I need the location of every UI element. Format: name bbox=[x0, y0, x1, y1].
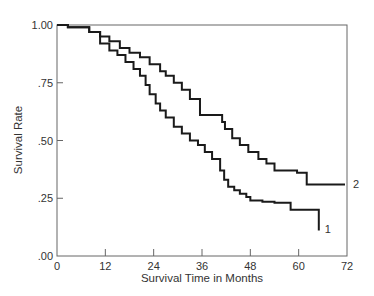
survival-curves bbox=[57, 25, 345, 231]
plot-area-border bbox=[57, 25, 347, 256]
series-2-label: 2 bbox=[353, 178, 359, 190]
y-tick-label: .50 bbox=[38, 135, 53, 147]
survival-curve-1 bbox=[57, 25, 319, 231]
plot-frame bbox=[57, 25, 347, 256]
y-tick-label: 1.00 bbox=[32, 19, 53, 31]
survival-curve-2 bbox=[57, 25, 345, 184]
x-axis-title: Survival Time in Months bbox=[141, 272, 263, 284]
x-tick-label: 12 bbox=[99, 260, 111, 272]
x-tick-label: 72 bbox=[341, 260, 353, 272]
survival-chart: .00.25.50.751.00 0122436486072 Survival … bbox=[0, 0, 374, 296]
x-tick-label: 0 bbox=[54, 260, 60, 272]
x-tick-label: 36 bbox=[196, 260, 208, 272]
y-tick-label: .25 bbox=[38, 192, 53, 204]
y-tick-label: .00 bbox=[38, 250, 53, 262]
x-tick-label: 24 bbox=[148, 260, 160, 272]
y-axis: .00.25.50.751.00 bbox=[32, 19, 63, 262]
y-axis-title: Survival Rate bbox=[12, 106, 24, 174]
series-1-label: 1 bbox=[325, 223, 331, 235]
x-tick-label: 60 bbox=[293, 260, 305, 272]
y-tick-label: .75 bbox=[38, 77, 53, 89]
x-axis: 0122436486072 bbox=[54, 249, 353, 272]
x-tick-label: 48 bbox=[244, 260, 256, 272]
